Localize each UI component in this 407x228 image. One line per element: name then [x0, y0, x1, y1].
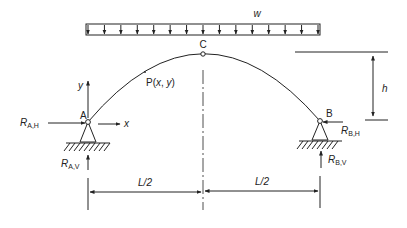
rise-label: h: [382, 83, 388, 94]
support-a-label: A: [80, 110, 87, 121]
crown-label: C: [199, 39, 206, 50]
reaction-b-v-label: RB,V: [328, 154, 347, 166]
reaction-a-h-label: RA,H: [20, 117, 39, 129]
load-arrows: [88, 25, 318, 34]
point-p-marker: [144, 71, 146, 73]
ground-hatch: [312, 141, 318, 149]
arch-diagram: w C P(x, y) A y x RA,H RA,V B RB,H RB,V …: [0, 0, 407, 228]
right-span-label: L/2: [255, 176, 269, 187]
ground-hatch: [302, 141, 308, 149]
point-p-label: P(x, y): [146, 77, 175, 88]
ground-hatch: [332, 141, 338, 149]
rise-dimension: [295, 52, 388, 120]
ground-hatch: [317, 141, 323, 149]
ground-hatch: [104, 143, 110, 151]
ground-hatch: [99, 143, 105, 151]
span-dimension: [88, 176, 320, 210]
ground-hatch: [89, 143, 95, 151]
arch-curve: [88, 54, 320, 122]
ground-hatch: [84, 143, 90, 151]
left-span-label: L/2: [138, 177, 152, 188]
support-a: [64, 122, 110, 151]
support-b-label: B: [326, 108, 333, 119]
ground-hatch: [69, 143, 75, 151]
distributed-load: [86, 24, 320, 35]
ground-hatch: [64, 143, 70, 151]
support-b: [297, 121, 342, 149]
reaction-b-h-label: RB,H: [341, 125, 360, 137]
ground-hatch: [327, 141, 333, 149]
hinge-c: [201, 52, 205, 56]
hinge-b: [318, 119, 323, 124]
x-axis-label: x: [123, 118, 130, 129]
ground-hatch: [297, 141, 303, 149]
ground-hatch: [79, 143, 85, 151]
ground-hatch: [94, 143, 100, 151]
ground-hatch: [307, 141, 313, 149]
y-axis-label: y: [77, 80, 84, 91]
ground-hatch: [74, 143, 80, 151]
ground-hatch: [322, 141, 328, 149]
load-label: w: [253, 8, 261, 19]
reaction-a-v-label: RA,V: [61, 158, 80, 170]
